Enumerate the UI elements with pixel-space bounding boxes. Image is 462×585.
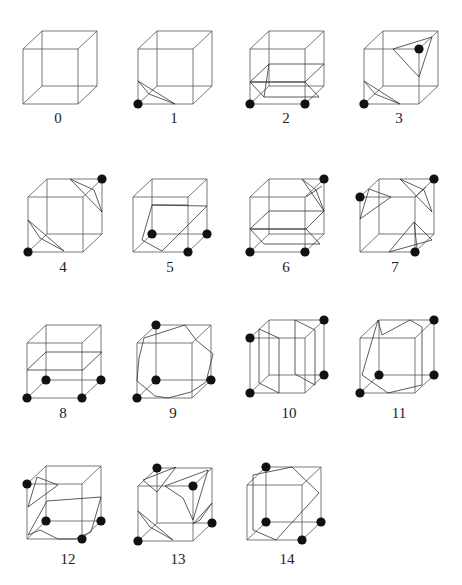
case-label: 9 xyxy=(169,405,177,421)
case-label: 6 xyxy=(282,259,290,275)
inside-vertex-dot xyxy=(261,517,270,526)
case-label: 2 xyxy=(282,110,290,126)
inside-vertex-dot xyxy=(245,99,254,108)
cube-edge xyxy=(193,31,212,49)
isosurface-polygon xyxy=(360,189,391,219)
inside-vertex-dot xyxy=(300,247,309,256)
inside-vertex-dot xyxy=(355,192,364,201)
case-1: 1 xyxy=(133,31,212,126)
inside-vertex-dot xyxy=(97,174,106,183)
inside-vertex-dot xyxy=(319,370,328,379)
isosurface-polygon xyxy=(389,222,432,252)
case-label: 12 xyxy=(61,551,76,567)
isosurface-polygon xyxy=(364,81,400,104)
cube-edge xyxy=(27,325,46,343)
inside-vertex-dot xyxy=(429,315,438,324)
isosurface-polygon xyxy=(138,81,175,104)
case-label: 1 xyxy=(170,110,178,126)
inside-vertex-dot xyxy=(77,534,86,543)
inside-vertex-dot xyxy=(414,44,423,53)
inside-vertex-dot xyxy=(183,247,192,256)
inside-vertex-dot xyxy=(41,516,50,525)
case-label: 4 xyxy=(59,259,67,275)
inside-vertex-dot xyxy=(319,315,328,324)
cube-edge xyxy=(82,466,101,484)
isosurface-polygon xyxy=(250,211,324,229)
inside-vertex-dot xyxy=(359,99,368,108)
inside-vertex-dot xyxy=(206,375,215,384)
inside-vertex-dot xyxy=(132,393,141,402)
cube-edge xyxy=(78,86,97,104)
isosurface-polygon xyxy=(28,477,58,507)
cube-edge xyxy=(360,320,379,338)
case-label: 14 xyxy=(280,551,296,567)
isosurface-polygon xyxy=(400,179,432,212)
inside-vertex-dot xyxy=(188,481,197,490)
cube-edge xyxy=(82,325,101,343)
cube-edge xyxy=(193,86,212,104)
inside-vertex-dot xyxy=(133,99,142,108)
case-9: 9 xyxy=(132,320,215,421)
case-12: 12 xyxy=(22,466,105,567)
inside-vertex-dot xyxy=(96,516,105,525)
inside-vertex-dot xyxy=(41,375,50,384)
cube-edge xyxy=(138,31,157,49)
inside-vertex-dot xyxy=(261,462,270,471)
inside-vertex-dot xyxy=(96,375,105,384)
case-13: 13 xyxy=(133,463,216,567)
cube-edge xyxy=(188,179,207,197)
cube-edge xyxy=(302,467,321,485)
case-7: 7 xyxy=(355,174,438,275)
cube-edge xyxy=(305,31,324,49)
case-3: 3 xyxy=(359,31,438,126)
isosurface-polygon xyxy=(28,497,101,539)
cube-edge xyxy=(28,179,47,197)
inside-vertex-dot xyxy=(355,388,364,397)
case-label: 3 xyxy=(395,110,403,126)
inside-vertex-dot xyxy=(429,370,438,379)
inside-vertex-dot xyxy=(410,247,419,256)
case-label: 13 xyxy=(171,551,186,567)
inside-vertex-dot xyxy=(147,229,156,238)
marching-cubes-figure: 01234567891011121314 xyxy=(0,0,462,585)
inside-vertex-dot xyxy=(429,174,438,183)
inside-vertex-dot xyxy=(151,320,160,329)
case-label: 10 xyxy=(282,405,297,421)
inside-vertex-dot xyxy=(22,393,31,402)
inside-vertex-dot xyxy=(151,375,160,384)
case-label: 5 xyxy=(166,259,174,275)
case-0: 0 xyxy=(23,31,97,126)
inside-vertex-dot xyxy=(22,479,31,488)
cube-edge xyxy=(250,31,269,49)
case-14: 14 xyxy=(247,462,326,567)
cube-edge xyxy=(78,31,97,49)
case-label: 0 xyxy=(54,110,62,126)
case-6: 6 xyxy=(245,174,328,275)
inside-vertex-dot xyxy=(316,517,325,526)
inside-vertex-dot xyxy=(245,247,254,256)
isosurface-polygon xyxy=(250,82,319,97)
inside-vertex-dot xyxy=(319,174,328,183)
isosurface-polygon xyxy=(393,37,432,77)
case-8: 8 xyxy=(22,325,105,421)
case-2: 2 xyxy=(245,31,324,126)
case-5: 5 xyxy=(133,179,212,275)
inside-vertex-dot xyxy=(245,333,254,342)
cube-edge xyxy=(23,86,42,104)
inside-vertex-dot xyxy=(374,370,383,379)
inside-vertex-dot xyxy=(297,535,306,544)
case-label: 8 xyxy=(59,405,67,421)
inside-vertex-dot xyxy=(77,393,86,402)
isosurface-polygon xyxy=(27,352,102,370)
cube-edge xyxy=(23,31,42,49)
inside-vertex-dot xyxy=(245,388,254,397)
isosurface-polygon xyxy=(414,222,417,248)
cube-edge xyxy=(250,179,269,197)
cube-edge xyxy=(133,179,152,197)
case-11: 11 xyxy=(355,315,438,421)
inside-vertex-dot xyxy=(300,99,309,108)
inside-vertex-dot xyxy=(23,247,32,256)
inside-vertex-dot xyxy=(207,518,216,527)
cube-edge xyxy=(83,234,102,252)
isosurface-polygon xyxy=(250,64,324,82)
